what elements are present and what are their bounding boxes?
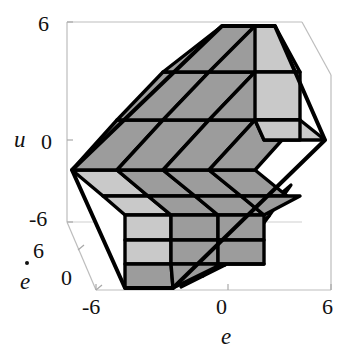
- e-axis-tick-0: 0: [216, 296, 227, 318]
- back-right-depth-frame: [302, 22, 331, 75]
- edot-dot-accent-icon: [25, 261, 29, 265]
- surface-patch-plateau-low: [125, 240, 171, 264]
- u-axis-title: u: [14, 128, 26, 151]
- e-axis-tick-neg6: -6: [82, 296, 100, 318]
- surface-body: [72, 26, 325, 288]
- edot-axis-tick-6: 6: [33, 240, 44, 262]
- surface-patch-slope: [218, 240, 264, 264]
- surface-patch-slope: [171, 215, 218, 240]
- u-axis-tick-neg6: -6: [29, 208, 47, 230]
- surface-patch-slope-low: [125, 264, 173, 288]
- u-axis-tick-6: 6: [38, 13, 49, 35]
- edot-axis-title-text: e: [20, 269, 30, 294]
- e-axis-tick-6: 6: [322, 296, 333, 318]
- edot-tick-mark-6: [78, 245, 84, 250]
- u-axis-tick-0: 0: [41, 131, 52, 153]
- edot-axis-tick-0: 0: [61, 267, 72, 289]
- surface-plot-svg: [0, 0, 354, 351]
- surface-patch-plateau-high: [255, 120, 300, 140]
- surface-patch-plateau-high: [255, 72, 300, 120]
- figure-container: 6 0 -6 u 6 0 e -6 0 6 e: [0, 0, 354, 351]
- edot-tick-mark-0: [96, 285, 102, 290]
- surface-patch-plateau-low: [125, 215, 171, 240]
- edot-axis-title: e: [20, 270, 30, 293]
- e-axis-title: e: [221, 325, 231, 348]
